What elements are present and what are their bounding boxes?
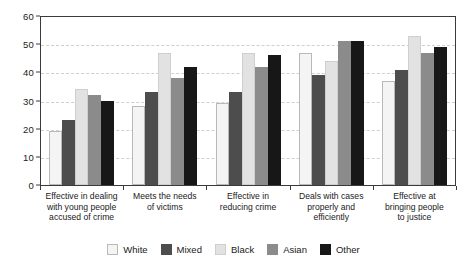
x-axis-label-line: Effective at <box>375 191 454 202</box>
legend-label: Asian <box>283 244 307 255</box>
grouped-bar-chart: 0102030405060 Effective in dealingwith y… <box>0 0 467 270</box>
x-axis-labels: Effective in dealingwith young peopleacc… <box>40 191 456 223</box>
legend-label: White <box>123 244 147 255</box>
y-axis-tick-label: 20 <box>23 123 34 134</box>
x-axis-tick-mark <box>373 186 374 190</box>
chart-legend: WhiteMixedBlackAsianOther <box>0 244 467 255</box>
legend-swatch <box>107 244 118 255</box>
x-axis-label-line: to justice <box>375 212 454 223</box>
x-axis-label-line: efficiently <box>292 212 371 223</box>
y-axis-tick-label: 60 <box>23 11 34 22</box>
y-axis-tick-label: 40 <box>23 67 34 78</box>
y-axis-tick-label: 0 <box>29 180 34 191</box>
gridline <box>41 158 455 159</box>
x-axis-label-line: Effective in dealing <box>42 191 121 202</box>
y-axis-tick-label: 30 <box>23 95 34 106</box>
legend-label: Black <box>231 244 254 255</box>
x-axis-tick-mark <box>40 186 41 190</box>
gridline <box>41 73 455 74</box>
x-axis-label: Effective atbringing peopleto justice <box>373 191 456 223</box>
y-axis: 0102030405060 <box>0 0 40 190</box>
gridline <box>41 130 455 131</box>
x-axis-label-line: Meets the needs <box>125 191 204 202</box>
x-axis-label-line: properly and <box>292 202 371 213</box>
x-axis-tick-mark <box>123 186 124 190</box>
gridline <box>41 102 455 103</box>
legend-item[interactable]: Black <box>215 244 254 255</box>
x-axis-label-line: bringing people <box>375 202 454 213</box>
x-axis-label-line: of victims <box>125 202 204 213</box>
legend-label: Mixed <box>177 244 202 255</box>
legend-swatch <box>161 244 172 255</box>
legend-swatch <box>267 244 278 255</box>
x-axis-label: Effective in dealingwith young peopleacc… <box>40 191 123 223</box>
legend-item[interactable]: White <box>107 244 147 255</box>
legend-swatch <box>215 244 226 255</box>
gridline <box>41 45 455 46</box>
x-axis-label: Deals with casesproperly andefficiently <box>290 191 373 223</box>
x-axis-label-line: accused of crime <box>42 212 121 223</box>
x-axis-label: Effective inreducing crime <box>206 191 289 223</box>
x-axis-label: Meets the needsof victims <box>123 191 206 223</box>
legend-item[interactable]: Other <box>320 244 360 255</box>
x-axis-label-line: Deals with cases <box>292 191 371 202</box>
x-axis-tick-mark <box>206 186 207 190</box>
gridlines <box>41 17 455 185</box>
x-axis-label-line: reducing crime <box>208 202 287 213</box>
plot-area <box>40 16 456 186</box>
legend-label: Other <box>336 244 360 255</box>
legend-item[interactable]: Asian <box>267 244 307 255</box>
x-axis-label-line: with young people <box>42 202 121 213</box>
y-axis-tick-label: 50 <box>23 39 34 50</box>
legend-item[interactable]: Mixed <box>161 244 202 255</box>
x-axis-label-line: Effective in <box>208 191 287 202</box>
x-axis-tick-mark <box>290 186 291 190</box>
y-axis-tick-label: 10 <box>23 151 34 162</box>
x-axis-tick-mark <box>456 186 457 190</box>
legend-swatch <box>320 244 331 255</box>
